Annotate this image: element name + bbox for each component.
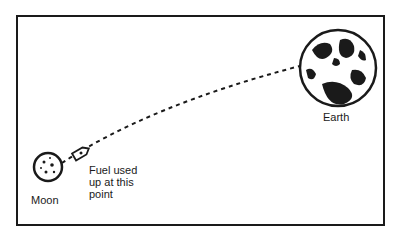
earth-label: Earth (323, 111, 349, 123)
earth-icon (300, 30, 376, 106)
trajectory-path (62, 66, 300, 163)
rocket-icon (72, 145, 91, 160)
moon-icon (34, 153, 62, 181)
fuel-note-label: Fuel used up at this point (89, 164, 149, 200)
moon-label: Moon (31, 194, 59, 206)
